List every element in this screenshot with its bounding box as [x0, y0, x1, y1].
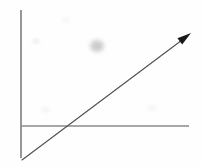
- line-graph-figure: Rising trend line graph: [0, 0, 202, 166]
- paper-speck-right-icon: [147, 104, 157, 112]
- chart-canvas: [0, 0, 202, 166]
- chart-background: [0, 0, 202, 166]
- paper-speck-top-icon: [62, 17, 70, 23]
- paper-speck-lower-icon: [41, 107, 51, 113]
- ink-smudge-icon: [90, 40, 104, 52]
- paper-speck-left-icon: [32, 38, 40, 44]
